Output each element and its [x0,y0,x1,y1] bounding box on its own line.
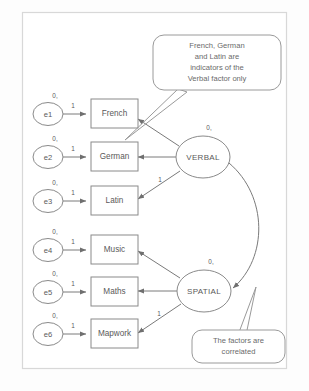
error-node-e4[interactable]: e4 [33,239,63,262]
observed-label-german: German [100,152,130,161]
error-node-e1[interactable]: e1 [33,103,63,126]
error-label-e6: e6 [44,330,52,339]
error-node-e3[interactable]: e3 [33,190,63,213]
error-label-e2: e2 [44,153,52,162]
loading-label-spatial-mapwork: 1 [157,310,161,317]
error-mean-e1: 0, [52,92,58,99]
diagram-canvas: e1 0, 1 e2 0, 1 e3 0, 1 e4 0, 1 e5 0, 1 [0,0,309,391]
latent-label-verbal: VERBAL [186,153,220,162]
error-node-e2[interactable]: e2 [33,146,63,169]
latent-mean-spatial: 0, [208,258,214,265]
error-loading-e3: 1 [71,189,75,196]
loading-label-verbal-latin: 1 [158,176,162,183]
error-node-e5[interactable]: e5 [33,281,63,304]
callout2-line-1: The factors are [213,336,264,345]
error-mean-e4: 0, [52,228,58,235]
error-label-e4: e4 [44,246,52,255]
callout-line-2: and Latin are [195,52,239,61]
error-loading-e6: 1 [71,322,75,329]
error-loading-e2: 1 [71,145,75,152]
sem-path-diagram: e1 0, 1 e2 0, 1 e3 0, 1 e4 0, 1 e5 0, 1 [0,0,309,391]
callout-line-3: indicators of the [190,63,244,72]
observed-node-french[interactable]: French [91,99,138,128]
observed-label-maths: Maths [103,287,125,296]
observed-label-music: Music [104,245,125,254]
callout2-line-2: correlated [222,347,256,356]
latent-node-spatial[interactable]: SPATIAL [177,270,231,312]
observed-label-latin: Latin [106,196,124,205]
latent-node-verbal[interactable]: VERBAL [176,136,230,178]
observed-label-mapwork: Mapwork [98,329,132,338]
error-mean-e5: 0, [52,270,58,277]
observed-node-maths[interactable]: Maths [91,277,138,306]
callout-line-4: Verbal factor only [188,74,247,83]
error-label-e5: e5 [44,288,52,297]
callout-line-1: French, German [189,41,244,50]
observed-node-mapwork[interactable]: Mapwork [91,319,138,348]
observed-label-french: French [102,109,128,118]
latent-mean-verbal: 0, [206,124,212,131]
error-loading-e5: 1 [71,280,75,287]
observed-node-latin[interactable]: Latin [91,186,138,215]
error-mean-e2: 0, [52,135,58,142]
error-loading-e4: 1 [71,238,75,245]
error-mean-e6: 0, [52,312,58,319]
error-label-e1: e1 [44,110,52,119]
error-label-e3: e3 [44,197,52,206]
observed-node-german[interactable]: German [91,142,138,171]
latent-label-spatial: SPATIAL [187,287,221,296]
error-mean-e3: 0, [52,179,58,186]
observed-node-music[interactable]: Music [91,235,138,264]
error-loading-e1: 1 [71,102,75,109]
error-node-e6[interactable]: e6 [33,323,63,346]
